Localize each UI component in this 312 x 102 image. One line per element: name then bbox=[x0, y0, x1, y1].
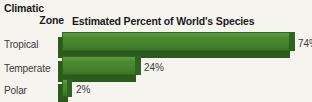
bar-chart: Climatic Zone Estimated Percent of World… bbox=[0, 0, 312, 102]
chart-title: Estimated Percent of World's Species bbox=[72, 15, 254, 27]
bar-temperate-cap bbox=[136, 56, 141, 75]
category-axis-title: Climatic Zone bbox=[4, 3, 66, 26]
chart-row-tropical: Tropical 74% bbox=[0, 32, 312, 54]
bar-polar-cap bbox=[68, 79, 72, 97]
chart-row-polar: Polar 2% bbox=[0, 79, 312, 101]
value-label-temperate: 24% bbox=[144, 62, 164, 73]
value-label-polar: 2% bbox=[76, 84, 90, 95]
bar-temperate-face bbox=[62, 56, 136, 75]
value-label-tropical: 74% bbox=[298, 38, 312, 49]
category-axis-title-line2: Zone bbox=[4, 15, 66, 27]
category-label-temperate: Temperate bbox=[4, 63, 50, 74]
category-label-polar: Polar bbox=[4, 85, 27, 96]
chart-row-temperate: Temperate 24% bbox=[0, 56, 312, 78]
bar-tropical-cap bbox=[290, 32, 295, 51]
bar-tropical-face bbox=[62, 32, 290, 51]
category-label-tropical: Tropical bbox=[4, 39, 38, 50]
category-axis-title-line1: Climatic bbox=[4, 2, 44, 14]
